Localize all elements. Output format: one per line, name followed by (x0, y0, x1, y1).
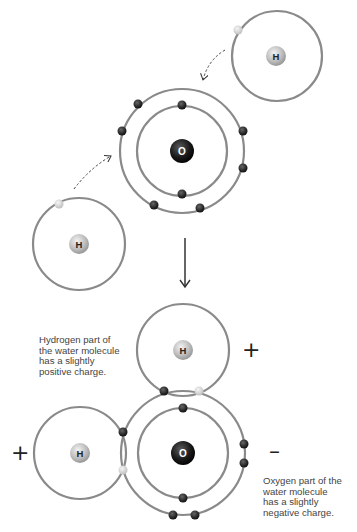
water-hydrogen-left-nucleus: H (70, 443, 90, 463)
hydrogen-electron (55, 200, 64, 209)
hydrogen-caption: Hydrogen part of the water molecule has … (39, 335, 120, 377)
hydrogen-nucleus: H (266, 46, 286, 66)
svg-text:H: H (180, 345, 187, 356)
dashed-arrow-icon (203, 50, 225, 80)
positive-charge-left: + (11, 442, 29, 464)
down-arrow-icon (180, 238, 190, 287)
svg-text:H: H (76, 239, 83, 250)
hydrogen-nucleus: H (69, 234, 89, 254)
water-hydrogen-electron (119, 466, 128, 475)
svg-text:H: H (77, 448, 84, 459)
svg-text:H: H (273, 51, 280, 62)
oxygen-nucleus: O (170, 139, 194, 163)
water-hydrogen-top-nucleus: H (173, 340, 193, 360)
oxygen-caption: Oxygen part of the water molecule has a … (263, 476, 342, 518)
positive-charge-top: + (242, 339, 260, 361)
svg-text:O: O (178, 146, 186, 157)
water-hydrogen-electron (195, 387, 204, 396)
negative-charge: – (269, 440, 280, 462)
dashed-arrow-icon (74, 156, 111, 189)
hydrogen-electron (234, 26, 243, 35)
water-molecule-diagram: O H H H H O (0, 0, 357, 532)
svg-text:O: O (179, 448, 187, 459)
water-oxygen-nucleus: O (171, 441, 195, 465)
